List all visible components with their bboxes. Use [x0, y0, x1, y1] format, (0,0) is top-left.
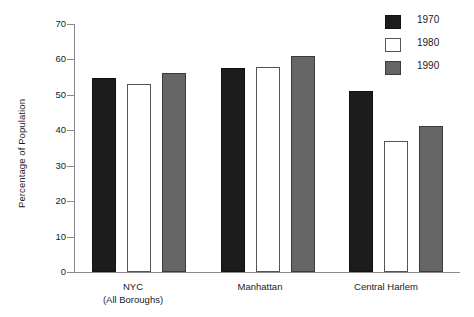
bar-central-harlem-1990: [419, 126, 443, 272]
y-tick-mark-60: [67, 59, 74, 60]
y-tick-mark-70: [67, 24, 74, 25]
y-tick-label-50: 50: [26, 90, 66, 100]
y-tick-label-40: 40: [26, 125, 66, 135]
legend-label-1990: 1990: [417, 60, 439, 71]
y-tick-mark-40: [67, 130, 74, 131]
white-square-swatch-icon: [385, 38, 401, 52]
bar-nyc-1980: [127, 84, 151, 272]
y-tick-mark-0: [67, 272, 74, 273]
y-axis-title: Percentage of Population: [16, 59, 27, 249]
x-axis-group-label-central-harlem: Central Harlem: [331, 281, 441, 294]
y-tick-label-70: 70: [26, 19, 66, 29]
x-axis-group-label-central-harlem-line1: Central Harlem: [331, 281, 441, 294]
bar-manhattan-1990: [291, 56, 315, 272]
y-tick-label-10: 10: [26, 232, 66, 242]
bar-nyc-1970: [92, 78, 116, 272]
x-axis-group-label-nyc-line1: NYC: [78, 281, 188, 294]
x-axis-group-label-manhattan: Manhattan: [205, 281, 315, 294]
y-tick-label-60: 60: [26, 54, 66, 64]
legend-label-1980: 1980: [417, 37, 439, 48]
plot-area: [74, 24, 460, 272]
black-square-swatch-icon: [385, 15, 401, 29]
y-tick-mark-20: [67, 201, 74, 202]
y-tick-label-0: 0: [26, 267, 66, 277]
bar-nyc-1990: [162, 73, 186, 272]
x-axis-group-label-nyc: NYC (All Boroughs): [78, 281, 188, 306]
x-axis-line: [74, 272, 460, 273]
bar-central-harlem-1980: [384, 141, 408, 272]
x-axis-group-label-manhattan-line1: Manhattan: [205, 281, 315, 294]
bar-chart: Percentage of Population 70 60 50 40 30 …: [0, 0, 474, 317]
y-tick-label-20: 20: [26, 196, 66, 206]
x-axis-group-label-nyc-line2: (All Boroughs): [78, 294, 188, 307]
y-tick-mark-50: [67, 95, 74, 96]
y-tick-mark-10: [67, 237, 74, 238]
bars-layer: [75, 24, 460, 272]
bar-manhattan-1980: [256, 67, 280, 272]
y-tick-mark-30: [67, 166, 74, 167]
gray-square-swatch-icon: [385, 61, 401, 75]
y-tick-label-30: 30: [26, 161, 66, 171]
y-axis-tick-labels: 70 60 50 40 30 20 10 0: [26, 24, 66, 272]
legend-label-1970: 1970: [417, 14, 439, 25]
bar-central-harlem-1970: [349, 91, 373, 272]
bar-manhattan-1970: [221, 68, 245, 272]
